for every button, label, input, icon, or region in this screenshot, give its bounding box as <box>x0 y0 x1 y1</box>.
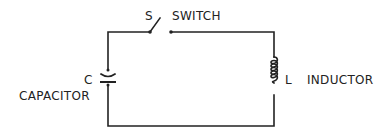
capacitor-name-label: CAPACITOR <box>19 89 90 103</box>
circuit-diagram: S SWITCH C CAPACITOR L INDUCTOR <box>0 0 386 133</box>
switch-name-label: SWITCH <box>172 9 221 23</box>
wire-top-left <box>108 32 149 70</box>
inductor-name-label: INDUCTOR <box>307 73 373 87</box>
switch-pivot-terminal <box>148 30 152 34</box>
capacitor-terminal-top <box>107 69 110 72</box>
capacitor-terminal-bottom <box>107 84 110 87</box>
inductor-symbol-label: L <box>285 73 292 87</box>
wire-bottom <box>108 85 274 126</box>
switch-symbol-label: S <box>145 9 153 23</box>
wire-top-right <box>172 32 274 57</box>
capacitor-symbol-label: C <box>84 73 93 87</box>
inductor-coil <box>271 57 277 83</box>
capacitor-plate-curved <box>101 74 115 77</box>
